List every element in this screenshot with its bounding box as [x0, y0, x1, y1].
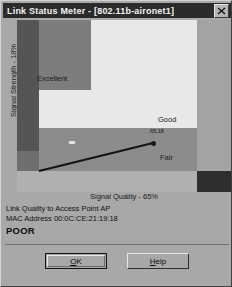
ok-button-inner: OK — [47, 255, 105, 267]
ok-button-label: OK — [70, 257, 82, 266]
data-point-annotation: 65,18 — [150, 128, 164, 134]
divider — [5, 244, 229, 246]
status-verdict: POOR — [6, 225, 228, 236]
help-button-label: Help — [150, 257, 166, 266]
x-axis-label: Signal Quality - 65% — [17, 192, 231, 201]
chart-plot-area: Excellent Good Fair 65,18 — [17, 20, 231, 192]
ok-button[interactable]: OK — [45, 253, 107, 269]
signal-chart: Signal Strength - 18% Excellent Good Fai… — [3, 20, 231, 192]
status-block: Link Quality to Access Point AP MAC Addr… — [6, 204, 228, 236]
mac-address-text: MAC Address 00:0C:CE:21:19:18 — [6, 214, 228, 224]
zone-poor-corner — [197, 171, 231, 192]
help-rest: elp — [156, 257, 167, 266]
zone-label-excellent: Excellent — [37, 74, 67, 83]
axis-tick-mark — [69, 141, 75, 144]
ok-rest: K — [76, 257, 81, 266]
help-button[interactable]: Help — [127, 253, 189, 269]
data-point-marker — [151, 141, 156, 146]
link-status-meter-window: Link Status Meter - [802.11b-aironet1] S… — [0, 0, 232, 287]
zone-left-column-dark — [17, 20, 39, 151]
button-row: OK Help — [1, 253, 232, 269]
link-quality-text: Link Quality to Access Point AP — [6, 204, 228, 214]
window-title: Link Status Meter - [802.11b-aironet1] — [3, 6, 174, 16]
title-bar[interactable]: Link Status Meter - [802.11b-aironet1] — [3, 3, 231, 18]
zone-fair-region — [39, 150, 197, 171]
zone-label-fair: Fair — [160, 153, 173, 162]
zone-good-right-region — [197, 20, 231, 171]
zone-label-good: Good — [158, 115, 176, 124]
close-button[interactable] — [214, 4, 229, 18]
